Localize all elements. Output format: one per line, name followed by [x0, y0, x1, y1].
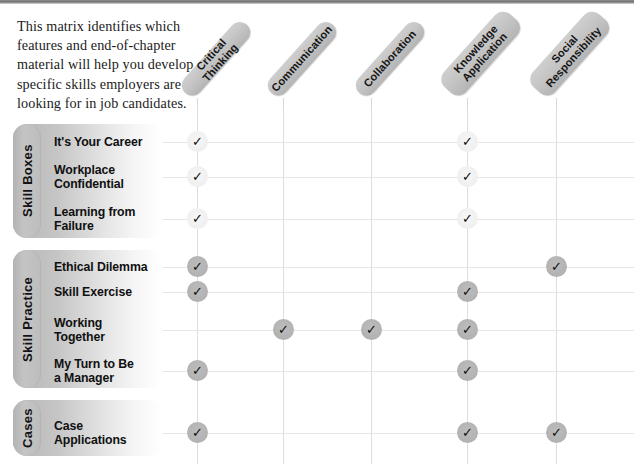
- intro-paragraph: This matrix identifies which features an…: [17, 17, 217, 113]
- check-mark: ✓: [187, 131, 208, 152]
- row-label: Learning from Failure: [54, 205, 174, 234]
- check-mark: ✓: [457, 131, 478, 152]
- group-label-3: Cases: [13, 400, 41, 456]
- grid-column-line-2: [283, 108, 284, 464]
- row-label: My Turn to Be a Manager: [54, 357, 174, 386]
- grid-column-line-5: [556, 108, 557, 464]
- check-mark: ✓: [457, 166, 478, 187]
- check-mark: ✓: [187, 166, 208, 187]
- check-mark: ✓: [457, 360, 478, 381]
- column-header-2: Communication: [263, 18, 340, 100]
- row-label: Ethical Dilemma: [54, 260, 174, 274]
- grid-column-line-3: [371, 108, 372, 464]
- skills-matrix-page: This matrix identifies which features an…: [0, 0, 634, 464]
- column-header-5: Social Responsibility: [526, 7, 614, 100]
- check-mark: ✓: [187, 281, 208, 302]
- row-label: Skill Exercise: [54, 285, 174, 299]
- group-label-1: Skill Boxes: [13, 124, 41, 238]
- column-header-4: Knowledge Application: [437, 7, 525, 100]
- group-label-2: Skill Practice: [13, 250, 41, 388]
- column-header-3: Collaboration: [351, 18, 428, 100]
- check-mark: ✓: [273, 319, 294, 340]
- row-label: It's Your Career: [54, 135, 174, 149]
- check-mark: ✓: [546, 256, 567, 277]
- row-label: Working Together: [54, 316, 174, 345]
- check-mark: ✓: [187, 360, 208, 381]
- check-mark: ✓: [361, 319, 382, 340]
- check-mark: ✓: [187, 422, 208, 443]
- check-mark: ✓: [457, 208, 478, 229]
- row-label: Case Applications: [54, 419, 174, 448]
- check-mark: ✓: [187, 256, 208, 277]
- row-label: Workplace Confidential: [54, 163, 174, 192]
- page-top-rule: [0, 0, 634, 4]
- check-mark: ✓: [546, 422, 567, 443]
- check-mark: ✓: [457, 281, 478, 302]
- check-mark: ✓: [187, 208, 208, 229]
- check-mark: ✓: [457, 319, 478, 340]
- check-mark: ✓: [457, 422, 478, 443]
